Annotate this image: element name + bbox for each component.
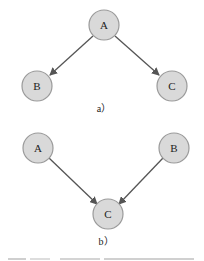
node-a-C: C (157, 71, 187, 101)
edge-b-B-to-C (119, 158, 163, 204)
caption-fragment (104, 258, 194, 260)
caption-fragment (8, 258, 26, 260)
figure-caption-clipped (8, 258, 194, 260)
caption-fragment (30, 258, 50, 260)
node-label: C (168, 80, 175, 92)
edge-b-A-to-C (49, 158, 97, 204)
node-label: A (100, 19, 108, 31)
node-b-B: B (159, 133, 189, 163)
caption-fragment (60, 258, 100, 260)
diagram-b: A B C b） (23, 133, 189, 247)
subfigure-label-b: b） (99, 236, 114, 247)
subfigure-label-a: a） (97, 103, 111, 114)
node-b-A: A (23, 133, 53, 163)
edge-a-A-to-B (50, 36, 93, 75)
node-b-C: C (93, 199, 123, 229)
diagram-a: A B C a） (22, 10, 187, 114)
node-label: B (170, 142, 177, 154)
node-label: B (33, 80, 40, 92)
node-label: C (104, 208, 111, 220)
node-a-A: A (89, 10, 119, 40)
node-a-B: B (22, 71, 52, 101)
edge-a-A-to-C (115, 36, 159, 75)
diagram-canvas: A B C a） A B C b） (0, 0, 204, 261)
node-label: A (34, 142, 42, 154)
